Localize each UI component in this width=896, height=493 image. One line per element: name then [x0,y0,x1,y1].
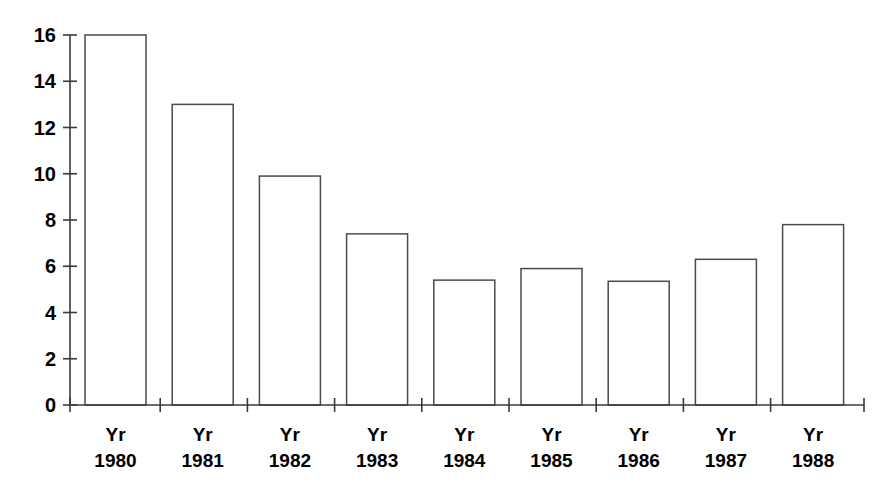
y-axis-tick-label: 8 [45,209,56,231]
y-axis-tick-label: 2 [45,348,56,370]
bar [85,35,146,405]
y-axis-tick-label: 6 [45,255,56,277]
x-axis-tick-label: Yr1987 [705,424,747,471]
bar [434,280,495,405]
plot-area: 0246810121416 Yr1980Yr1981Yr1982Yr1983Yr… [0,0,896,493]
x-axis-tick-label: Yr1984 [443,424,486,471]
bar [172,104,233,405]
x-axis-tick-label: Yr1985 [530,424,573,471]
y-axis-tick-labels: 0246810121416 [34,24,57,416]
y-axis-tick-label: 12 [34,117,56,139]
y-axis-tick-label: 10 [34,163,56,185]
x-axis-tick-label: Yr1983 [356,424,398,471]
y-axis-tick-label: 0 [45,394,56,416]
x-axis-tick-label: Yr1986 [618,424,660,471]
bar [521,269,582,405]
bar [347,234,408,405]
bar [608,281,669,405]
bar [259,176,320,405]
bars-group [85,35,844,405]
x-axis-tick-labels: Yr1980Yr1981Yr1982Yr1983Yr1984Yr1985Yr19… [94,424,834,471]
bar [783,225,844,405]
y-axis-tick-label: 14 [34,70,57,92]
y-axis-tick-label: 16 [34,24,56,46]
bar-chart: 0246810121416 Yr1980Yr1981Yr1982Yr1983Yr… [0,0,896,493]
chart-canvas: 0246810121416 Yr1980Yr1981Yr1982Yr1983Yr… [0,0,896,493]
x-axis-tick-label: Yr1988 [792,424,834,471]
x-axis-tick-label: Yr1981 [182,424,225,471]
x-axis-tick-label: Yr1982 [269,424,311,471]
x-axis-tick-label: Yr1980 [94,424,136,471]
bar [695,259,756,405]
y-axis-tick-label: 4 [45,302,57,324]
